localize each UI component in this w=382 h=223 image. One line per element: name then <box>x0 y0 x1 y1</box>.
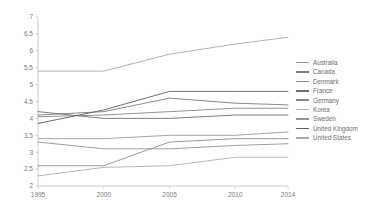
x-tick-label: 2000 <box>97 191 112 198</box>
series-line-sweden <box>38 142 288 149</box>
x-tick-label: 2014 <box>281 191 296 198</box>
legend-swatch-icon <box>296 128 309 130</box>
legend-label: Sweden <box>313 114 336 123</box>
legend-item-sweden[interactable]: Sweden <box>296 114 382 123</box>
y-tick-label: 7 <box>29 13 33 20</box>
legend-label: Germany <box>313 96 339 105</box>
x-tick-label: 2010 <box>228 191 243 198</box>
legend-swatch-icon <box>296 118 309 120</box>
legend-label: United Kingdom <box>313 124 358 133</box>
series-line-canada <box>38 98 288 115</box>
y-tick-label: 3.5 <box>24 132 33 139</box>
x-tick-label: 2005 <box>162 191 177 198</box>
legend-swatch-icon <box>296 81 309 83</box>
x-tick-label: 1995 <box>31 191 46 198</box>
y-tick-label: 5 <box>29 81 33 88</box>
y-axis-ticks: 22.533.544.555.566.57 <box>24 13 38 189</box>
legend-swatch-icon <box>296 109 309 111</box>
x-axis-ticks: 19952000200520102014 <box>31 186 296 198</box>
legend-item-germany[interactable]: Germany <box>296 96 382 105</box>
legend-item-canada[interactable]: Canada <box>296 67 382 76</box>
legend-item-korea[interactable]: Korea <box>296 105 382 114</box>
series-line-korea <box>38 157 288 176</box>
chart-plot-area: 22.533.544.555.566.57 199520002005201020… <box>0 0 296 214</box>
legend-item-france[interactable]: France <box>296 86 382 95</box>
legend-item-united-kingdom[interactable]: United Kingdom <box>296 124 382 133</box>
line-chart: 22.533.544.555.566.57 199520002005201020… <box>0 0 382 223</box>
legend-swatch-icon <box>296 62 309 64</box>
legend-label: Denmark <box>313 77 339 86</box>
legend-label: United States <box>313 133 351 142</box>
legend-swatch-icon <box>296 137 309 139</box>
legend-swatch-icon <box>296 71 309 73</box>
y-tick-label: 6.5 <box>24 30 33 37</box>
legend-label: Korea <box>313 105 330 114</box>
series-line-denmark <box>38 139 288 166</box>
legend-label: France <box>313 86 333 95</box>
legend-swatch-icon <box>296 99 309 101</box>
series-line-united-states <box>38 37 288 71</box>
y-tick-label: 2 <box>29 182 33 189</box>
series-lines <box>38 37 288 176</box>
y-tick-label: 2.5 <box>24 165 33 172</box>
legend-item-australia[interactable]: Australia <box>296 58 382 67</box>
y-tick-label: 3 <box>29 149 33 156</box>
y-tick-label: 6 <box>29 47 33 54</box>
y-tick-label: 4.5 <box>24 98 33 105</box>
legend-swatch-icon <box>296 90 309 92</box>
chart-legend: AustraliaCanadaDenmarkFranceGermanyKorea… <box>296 58 382 143</box>
series-line-australia <box>38 132 288 139</box>
legend-item-united-states[interactable]: United States <box>296 133 382 142</box>
legend-item-denmark[interactable]: Denmark <box>296 77 382 86</box>
legend-label: Australia <box>313 58 338 67</box>
y-tick-label: 4 <box>29 115 33 122</box>
y-tick-label: 5.5 <box>24 64 33 71</box>
legend-label: Canada <box>313 67 335 76</box>
